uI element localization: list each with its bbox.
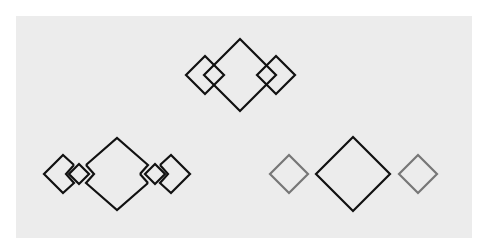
br-right-gray-diamond: [399, 155, 437, 193]
bottom-left-group: [44, 138, 190, 210]
bl-big-diamond-top: [86, 138, 148, 174]
diamond-diagram: [0, 0, 485, 250]
top-group: [186, 39, 295, 111]
bl-big-diamond-bottom: [86, 165, 148, 210]
bottom-right-group: [270, 137, 437, 211]
br-left-gray-diamond: [270, 155, 308, 193]
br-big-diamond: [316, 137, 390, 211]
top-big-diamond: [204, 39, 276, 111]
